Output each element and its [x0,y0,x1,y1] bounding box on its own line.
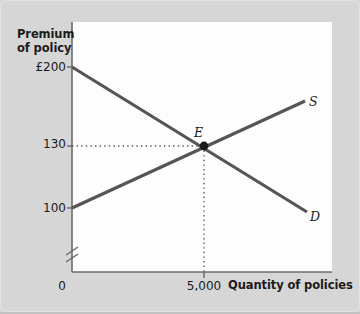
x-tick-label-5000: 5,000 [176,279,232,293]
equilibrium-point-marker [200,142,209,151]
equilibrium-label: E [194,126,203,141]
y-axis-title: Premiumof policy [17,28,74,55]
demand-curve-label: D [310,210,320,225]
y-tick-label-100: 100 [16,201,66,215]
y-axis-title-line2: of policy [17,41,71,55]
x-axis-title: Quantity of policies [228,279,353,293]
economics-supply-demand-figure: Premiumof policy Quantity of policies £2… [0,0,360,314]
origin-label: 0 [16,279,66,293]
y-axis-title-line1: Premium [17,27,74,41]
y-tick-label-130: 130 [16,137,66,151]
supply-curve [72,101,305,208]
supply-curve-label: S [309,95,318,110]
y-tick-label-200: £200 [16,60,66,74]
